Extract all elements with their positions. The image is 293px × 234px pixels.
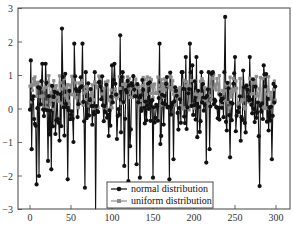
normal-point: [100, 74, 104, 78]
legend: normal distribution uniform distribution: [107, 182, 213, 208]
normal-point: [253, 120, 257, 124]
normal-point: [122, 164, 126, 168]
normal-point: [211, 70, 215, 74]
normal-point: [46, 159, 50, 163]
normal-point: [76, 102, 80, 106]
normal-point: [30, 147, 34, 151]
uniform-point: [50, 91, 53, 94]
normal-point: [56, 117, 60, 121]
uniform-point: [64, 86, 67, 89]
uniform-point: [75, 96, 78, 99]
normal-point: [151, 176, 155, 180]
chart: 050100150200250300 −3−2−10123 normal dis…: [0, 0, 293, 234]
normal-point: [148, 119, 152, 123]
y-axis: −3−2−10123: [2, 3, 22, 215]
uniform-point: [185, 80, 188, 83]
normal-point: [138, 176, 142, 180]
normal-point: [198, 119, 202, 123]
uniform-point: [215, 88, 218, 91]
uniform-point: [42, 94, 45, 97]
uniform-point: [161, 82, 164, 85]
uniform-point: [114, 87, 117, 90]
uniform-point: [228, 76, 231, 79]
uniform-point: [266, 88, 269, 91]
x-tick-label: 0: [28, 212, 33, 223]
normal-point: [62, 133, 66, 137]
normal-point: [248, 98, 252, 102]
normal-point: [141, 88, 145, 92]
normal-point: [205, 94, 209, 98]
normal-point: [162, 122, 166, 126]
normal-point: [119, 130, 123, 134]
normal-point: [109, 95, 113, 99]
normal-point: [236, 110, 240, 114]
normal-point: [157, 96, 161, 100]
normal-point: [222, 70, 226, 74]
y-tick-label: −2: [2, 171, 13, 182]
normal-point: [69, 113, 73, 117]
uniform-point: [96, 85, 99, 88]
normal-point: [233, 55, 237, 59]
normal-point: [202, 109, 206, 113]
normal-point: [94, 104, 98, 108]
x-tick-label: 300: [269, 212, 284, 223]
uniform-point: [156, 92, 159, 95]
normal-point: [224, 120, 228, 124]
uniform-point: [60, 87, 63, 90]
normal-point: [271, 114, 275, 118]
normal-point: [112, 62, 116, 66]
uniform-point: [169, 76, 172, 79]
uniform-point: [74, 81, 77, 84]
uniform-point: [242, 98, 245, 101]
normal-point: [38, 86, 42, 90]
uniform-point: [255, 75, 258, 78]
normal-point: [96, 110, 100, 114]
uniform-point: [44, 86, 47, 89]
uniform-point: [164, 88, 167, 91]
normal-point: [223, 15, 227, 19]
uniform-point: [244, 106, 247, 109]
normal-point: [243, 121, 247, 125]
normal-point: [197, 105, 201, 109]
normal-point: [234, 129, 238, 133]
normal-point: [217, 117, 221, 121]
normal-point: [239, 139, 243, 143]
normal-point: [42, 114, 46, 118]
normal-point: [237, 105, 241, 109]
normal-point: [177, 106, 181, 110]
normal-point: [238, 94, 242, 98]
normal-point: [59, 124, 63, 128]
normal-point: [182, 114, 186, 118]
x-tick-label: 50: [66, 212, 76, 223]
normal-point: [191, 113, 195, 117]
normal-point: [270, 157, 274, 161]
normal-point: [80, 42, 84, 46]
uniform-point: [56, 96, 59, 99]
uniform-marker-icon: [117, 199, 121, 203]
normal-point: [186, 91, 190, 95]
normal-point: [263, 84, 267, 88]
uniform-point: [67, 100, 70, 103]
normal-point: [31, 94, 35, 98]
normal-point: [235, 114, 239, 118]
normal-point: [252, 107, 256, 111]
normal-point: [250, 111, 254, 115]
normal-point: [115, 137, 119, 141]
uniform-point: [209, 85, 212, 88]
normal-point: [241, 68, 245, 72]
x-tick-label: 250: [228, 212, 243, 223]
uniform-point: [102, 87, 105, 90]
normal-point: [206, 87, 210, 91]
uniform-point: [228, 106, 231, 109]
uniform-point: [237, 101, 240, 104]
y-tick-label: 1: [8, 70, 13, 81]
normal-point: [248, 55, 252, 59]
uniform-point: [149, 92, 152, 95]
normal-point: [244, 130, 248, 134]
normal-point: [194, 55, 198, 59]
normal-point: [34, 124, 38, 128]
normal-point: [260, 101, 264, 105]
normal-point: [203, 102, 207, 106]
normal-point: [193, 79, 197, 83]
x-tick-label: 150: [146, 212, 161, 223]
